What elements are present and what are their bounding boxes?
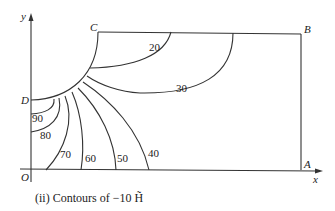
- contour-label-80: 80: [40, 129, 52, 141]
- contour-label-30: 30: [176, 82, 188, 94]
- x-axis-label: x: [312, 173, 318, 185]
- contour-label-70: 70: [60, 148, 72, 160]
- contour-50: [78, 88, 116, 170]
- figure-caption: (ii) Contours of −10 H̃: [35, 191, 143, 205]
- point-label-C: C: [90, 21, 98, 33]
- contour-60: [72, 92, 83, 170]
- contour-diagram: 20 30 40 50 60 70 80 90 C B A D O y x (i…: [0, 0, 335, 211]
- point-label-B: B: [304, 23, 311, 35]
- point-label-D: D: [20, 94, 29, 106]
- contour-label-60: 60: [85, 152, 97, 164]
- x-axis: [20, 169, 318, 171]
- contour-label-50: 50: [117, 152, 129, 164]
- contour-label-40: 40: [148, 147, 160, 159]
- point-label-A: A: [303, 158, 311, 170]
- boundary-CB: [98, 32, 301, 34]
- contour-30: [87, 33, 233, 93]
- contour-label-90: 90: [32, 112, 44, 124]
- origin-label: O: [21, 171, 29, 183]
- y-axis-label: y: [20, 10, 26, 22]
- boundary-arc-CD: [31, 32, 98, 100]
- y-axis-arrow-icon: [29, 13, 34, 21]
- contour-label-20: 20: [149, 41, 161, 53]
